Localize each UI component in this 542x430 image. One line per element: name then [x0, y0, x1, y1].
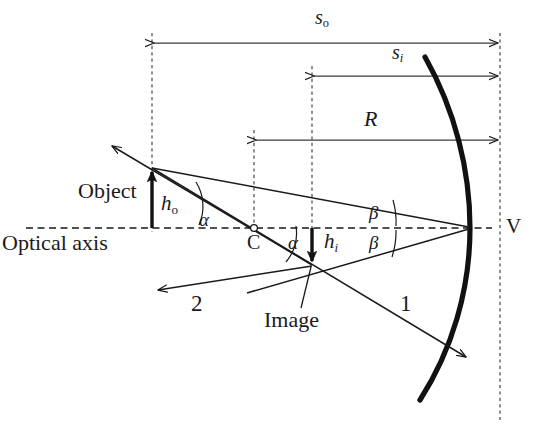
label-ray-two: 2 — [191, 292, 203, 315]
angle-arc-beta-lower — [392, 230, 396, 257]
label-beta-lower: β — [369, 233, 378, 252]
image-leader-line — [301, 267, 311, 308]
label-alpha-upper: α — [199, 210, 209, 229]
diagram-canvas — [0, 0, 542, 430]
label-center-of-curvature: C — [247, 232, 260, 252]
label-beta-upper: β — [369, 203, 378, 222]
ray-1-reflected — [247, 229, 469, 293]
label-r: R — [364, 108, 377, 130]
ray-2-reflected — [112, 146, 312, 265]
label-si: si — [392, 42, 403, 65]
ray-reflected-lower-left — [158, 266, 312, 290]
label-ho: ho — [161, 193, 178, 216]
label-hi: hi — [324, 231, 338, 254]
label-object: Object — [78, 180, 137, 202]
label-optical-axis: Optical axis — [2, 232, 108, 254]
optics-ray-diagram: so si R Object ho Optical axis α C α hi … — [0, 0, 542, 430]
label-image: Image — [264, 309, 319, 331]
label-vertex: V — [506, 216, 521, 237]
label-ray-one: 1 — [400, 292, 412, 315]
label-so: so — [315, 7, 329, 30]
label-alpha-lower: α — [288, 233, 298, 252]
